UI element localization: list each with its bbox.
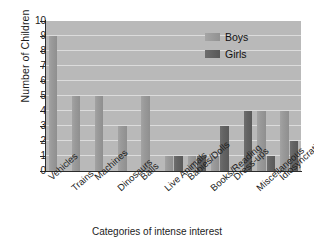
legend-label-boys: Boys: [225, 32, 248, 43]
bar-boys-vehicles: [49, 36, 58, 171]
x-axis-ticks: VehiclesTrainsMachinesDinosaursBallsLive…: [0, 172, 314, 226]
gridline: [46, 65, 301, 66]
y-tick-label: 1: [24, 151, 46, 161]
y-tick-label: 8: [24, 46, 46, 56]
legend-item-boys: Boys: [205, 30, 283, 44]
y-tick-label: 5: [24, 91, 46, 101]
legend-item-girls: Girls: [205, 47, 283, 61]
legend-swatch-girls: [205, 50, 220, 58]
y-tick-label: 6: [24, 76, 46, 86]
y-tick-label: 10: [24, 16, 46, 26]
legend: Boys Girls: [205, 30, 283, 64]
gridline: [46, 80, 301, 81]
y-tick-label: 2: [24, 136, 46, 146]
legend-label-girls: Girls: [225, 49, 247, 60]
legend-swatch-boys: [205, 33, 220, 41]
y-tick-label: 3: [24, 121, 46, 131]
x-axis-title: Categories of intense interest: [0, 226, 314, 237]
bar-boys-machines: [95, 96, 104, 171]
y-tick-label: 9: [24, 31, 46, 41]
gridline: [46, 95, 301, 96]
bar-chart-figure: Number of Children 012345678910 Vehicles…: [0, 0, 314, 244]
y-tick-label: 7: [24, 61, 46, 71]
y-tick-label: 4: [24, 106, 46, 116]
x-tick-label: Trains: [69, 168, 96, 194]
bar-boys-live-animals: [165, 156, 174, 171]
